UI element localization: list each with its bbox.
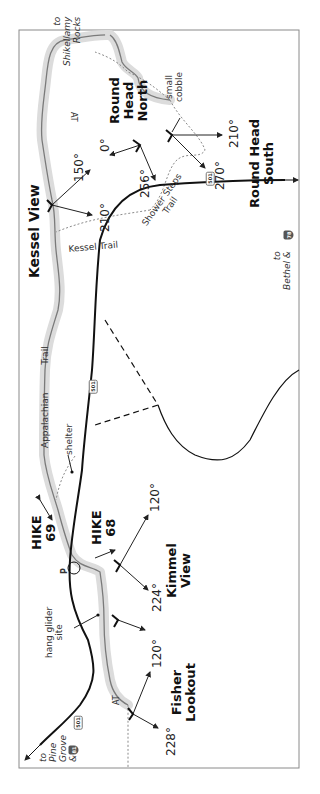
label-line: 68: [104, 510, 118, 545]
label-line: Round: [108, 77, 122, 124]
label-line: Rocks: [72, 17, 82, 66]
route-501-shield-middle: 501: [89, 379, 98, 393]
hike-69-label: HIKE 69: [30, 515, 58, 550]
label-line: HIKE: [30, 515, 44, 550]
label-line: Kimmel: [165, 543, 179, 598]
label-line: Head: [122, 77, 136, 124]
bearing-256: 256°: [138, 169, 152, 198]
label-line: Bethel &: [282, 251, 292, 290]
label-line: Trail: [40, 346, 50, 364]
to-bethel-label: to Bethel &: [272, 251, 292, 290]
label-line: North: [136, 77, 150, 124]
fisher-lookout-label: Fisher Lookout: [170, 663, 198, 722]
label-line: small: [164, 72, 174, 102]
label-line: to: [38, 735, 48, 762]
bearing-210-south: 210°: [227, 119, 241, 148]
label-line: View: [179, 543, 193, 598]
round-head-south-label: Round Head South: [248, 119, 276, 208]
bearing-150: 150°: [72, 153, 86, 182]
interstate-78-shield: 78: [284, 231, 294, 240]
bearing-120-kimmel: 120°: [148, 483, 162, 512]
label-line: 69: [44, 515, 58, 550]
label-line: hang glider: [44, 607, 54, 658]
label-line: to: [272, 251, 282, 290]
label-line: Pine: [48, 735, 58, 762]
label-line: Appalachian: [40, 393, 50, 449]
bearing-270: 270°: [213, 161, 227, 190]
label-line: cobble: [174, 72, 184, 102]
label-line: South: [262, 119, 276, 208]
parking-label: P: [60, 568, 69, 574]
to-shikellamy-label: to Shikellamy Rocks: [52, 17, 82, 66]
label-line: HIKE: [90, 510, 104, 545]
at-label-top: AT: [69, 112, 78, 122]
interstate-81-shield: 81: [69, 746, 79, 755]
label-line: Lookout: [184, 663, 198, 722]
hang-glider-site-label: hang glider site: [44, 607, 64, 658]
at-label-bottom: AT: [112, 695, 121, 705]
route-501-shield-bottom: 501: [74, 715, 83, 729]
label-line: Fisher: [170, 663, 184, 722]
appalachian-trail-label: Appalachian Trail: [40, 346, 50, 448]
bearing-228: 228°: [164, 727, 178, 756]
label-line: to: [52, 17, 62, 66]
label-line: Grove: [58, 735, 68, 762]
kimmel-view-label: Kimmel View: [165, 543, 193, 598]
bearing-0: 0°: [98, 138, 112, 152]
round-head-north-label: Round Head North: [108, 77, 150, 124]
bearing-210-kessel: 210°: [98, 203, 112, 232]
label-line: site: [54, 607, 64, 658]
shelter-label: shelter: [64, 424, 74, 455]
bearing-120-fisher: 120°: [150, 639, 164, 668]
kessel-view-label: Kessel View: [26, 184, 42, 278]
hike-68-label: HIKE 68: [90, 510, 118, 545]
bearing-224: 224°: [150, 583, 164, 612]
route-501-shield-top: 501: [206, 171, 215, 185]
label-line: Round Head: [248, 119, 262, 208]
label-line: Shikellamy: [62, 17, 72, 66]
small-cobble-label: small cobble: [164, 72, 184, 102]
